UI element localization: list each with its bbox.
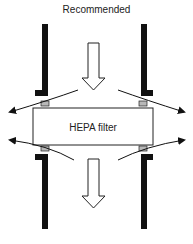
outflow-down-arrow	[82, 159, 105, 208]
gasket-top-right	[139, 101, 147, 106]
inflow-down-arrow	[82, 43, 105, 90]
hepa-diagram: HEPA filter	[0, 0, 193, 244]
hepa-filter-label: HEPA filter	[69, 122, 117, 133]
top-left-wall	[35, 24, 48, 96]
bottom-left-wall	[35, 154, 48, 229]
bottom-right-wall	[141, 154, 153, 229]
top-right-wall	[141, 24, 153, 96]
